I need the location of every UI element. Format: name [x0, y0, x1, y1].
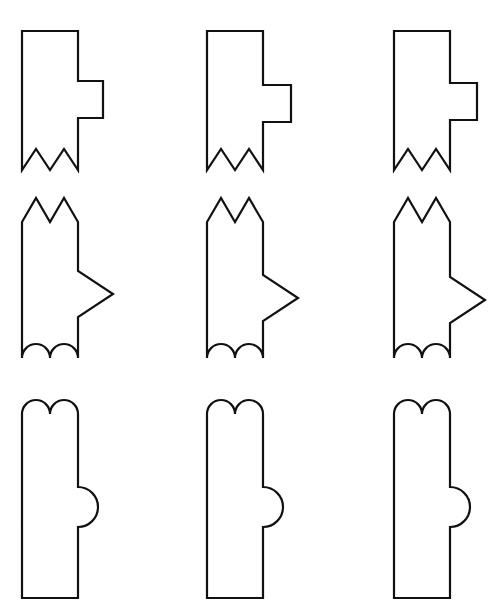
- figure-root: A three-by-three grid of outlined flag-l…: [0, 0, 497, 614]
- shape-grid: [0, 0, 497, 614]
